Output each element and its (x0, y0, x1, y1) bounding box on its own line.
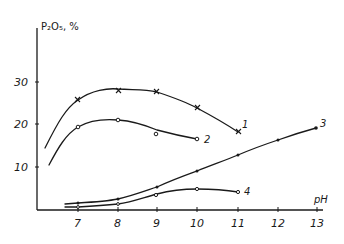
y-tick-20: 20 (14, 118, 28, 131)
x-tick-7: 7 (74, 217, 81, 230)
x-tick-9: 9 (153, 217, 160, 230)
y-tick-30: 30 (14, 76, 28, 89)
curve-label-3: 3 (320, 118, 326, 129)
series-1: 1 (45, 88, 248, 148)
curve-label-4: 4 (244, 186, 250, 197)
curve-label-1: 1 (242, 119, 248, 130)
x-axis-label: pH (313, 194, 328, 205)
curve-label-2: 2 (204, 134, 210, 145)
x-tick-8: 8 (114, 217, 121, 230)
x-tick-11: 11 (231, 217, 245, 230)
x-tick-10: 10 (190, 217, 204, 230)
x-tick-12: 12 (271, 217, 285, 230)
series-2: 2 (49, 118, 210, 165)
line-chart: P₂O₅, % pH 10 20 30 7 8 9 10 11 12 13 (0, 0, 344, 244)
series-3: 3 (65, 118, 326, 205)
y-axis-label: P₂O₅, % (41, 21, 79, 32)
x-tick-13: 13 (310, 217, 324, 230)
series-4: 4 (65, 186, 250, 208)
y-tick-10: 10 (14, 161, 28, 174)
y-ticks: 10 20 30 (14, 76, 39, 174)
